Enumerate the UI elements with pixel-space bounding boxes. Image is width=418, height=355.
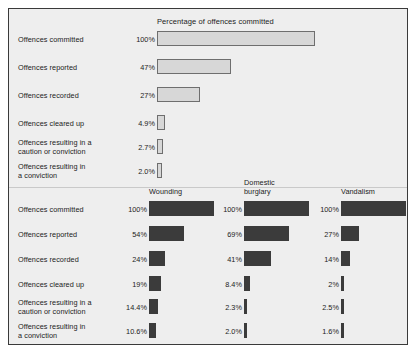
row-label-line-1: Offences resulting in a [18,138,126,147]
bar-domestic-burglary [244,226,289,241]
row-value: 2.0% [117,167,155,176]
row-label: Offences cleared up [18,119,126,128]
row-value-burglary: 41% [206,255,242,264]
bar-offences-recorded [157,87,200,102]
top-chart-row: Offences resulting in a conviction 2.0% [9,161,407,183]
column-header-domestic-burglary: Domestic burglary [244,178,275,196]
column-header-vandalism: Vandalism [341,187,375,196]
row-value: 2.7% [117,143,155,152]
bar-offences-conviction [157,163,162,178]
row-label: Offences resulting in a caution or convi… [18,138,126,157]
row-label: Offences reported [18,230,126,239]
row-value-vandalism: 1.6% [301,327,339,336]
row-value-wounding: 10.6% [109,327,147,336]
row-value-vandalism: 2.5% [301,303,339,312]
column-header-line-2b: burglary [244,187,275,196]
row-label: Offences recorded [18,255,126,264]
bottom-chart-row: Offences recorded 24% 41% 14% [9,249,407,271]
row-label-line-2: a conviction [18,171,126,180]
row-label-line-2: caution or conviction [18,147,126,156]
row-value-burglary: 2.0% [204,327,242,336]
row-value-vandalism: 100% [303,205,339,214]
row-label: Offences committed [18,205,126,214]
row-value-burglary: 69% [206,230,242,239]
bar-vandalism [341,276,344,291]
bottom-chart-row: Offences resulting in a caution or convi… [9,297,407,319]
row-label: Offences committed [18,35,126,44]
top-chart-row: Offences cleared up 4.9% [9,113,407,135]
bottom-chart-row: Offences resulting in a conviction 10.6%… [9,321,407,343]
bar-domestic-burglary [244,299,247,314]
column-header-line-1: Vandalism [341,187,375,196]
row-value-burglary: 100% [206,205,242,214]
chart-figure-panel: Percentage of offences committed Offence… [8,8,408,345]
bar-offences-committed [157,31,315,46]
bar-vandalism [341,251,350,266]
bar-vandalism [341,201,406,216]
top-chart-title: Percentage of offences committed [157,17,274,26]
row-value: 100% [117,35,155,44]
row-value-wounding: 100% [111,205,147,214]
bar-vandalism [341,226,359,241]
column-header-wounding: Wounding [149,187,182,196]
row-value-wounding: 24% [111,255,147,264]
top-chart-row: Offences recorded 27% [9,85,407,107]
row-value-burglary: 2.3% [204,303,242,312]
bar-wounding [149,251,165,266]
bar-wounding [149,201,214,216]
bar-domestic-burglary [244,323,247,338]
bar-vandalism [341,299,344,314]
row-label: Offences recorded [18,91,126,100]
row-value-burglary: 8.4% [206,280,242,289]
row-value-vandalism: 27% [303,230,339,239]
bar-offences-caution-or-conviction [157,139,163,154]
row-value: 4.9% [117,119,155,128]
row-label: Offences cleared up [18,280,126,289]
column-header-line-1: Wounding [149,187,182,196]
bar-wounding [149,226,184,241]
top-chart-row: Offences reported 47% [9,57,407,79]
bottom-chart-row: Offences committed 100% 100% 100% [9,199,407,221]
bottom-chart-row: Offences reported 54% 69% 27% [9,224,407,246]
row-label-line-1: Offences resulting in [18,162,126,171]
top-chart-row: Offences resulting in a caution or convi… [9,137,407,159]
row-value-wounding: 54% [111,230,147,239]
row-value: 47% [117,63,155,72]
bottom-chart-row: Offences cleared up 19% 8.4% 2% [9,274,407,296]
bar-offences-cleared-up [157,115,165,130]
row-value: 27% [117,91,155,100]
bar-offences-reported [157,59,231,74]
row-label: Offences reported [18,63,126,72]
column-header-line-1: Domestic [244,178,275,187]
bar-vandalism [341,323,344,338]
row-value-wounding: 14.4% [109,303,147,312]
row-label: Offences resulting in a conviction [18,162,126,181]
bar-domestic-burglary [244,276,250,291]
row-value-wounding: 19% [111,280,147,289]
bar-domestic-burglary [244,251,271,266]
bar-wounding [149,323,156,338]
row-value-vandalism: 2% [303,280,339,289]
bar-wounding [149,276,161,291]
bar-domestic-burglary [244,201,309,216]
top-chart-row: Offences committed 100% [9,29,407,51]
bar-wounding [149,299,158,314]
row-value-vandalism: 14% [303,255,339,264]
